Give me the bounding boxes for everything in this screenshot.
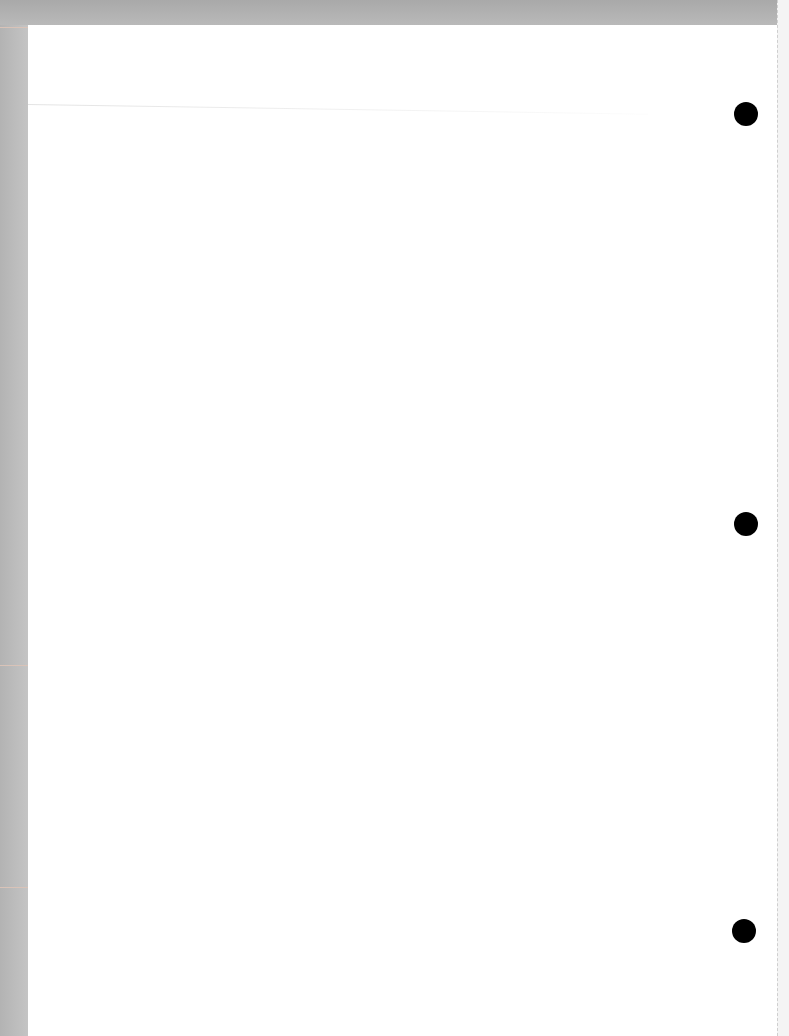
edge-mark — [0, 27, 28, 28]
punch-hole-bottom — [732, 919, 756, 943]
punch-hole-middle — [734, 512, 758, 536]
scanner-background-top — [0, 0, 789, 25]
page-right-edge — [777, 0, 789, 1036]
punch-hole-top — [734, 102, 758, 126]
scanner-background-left — [0, 25, 28, 1036]
blank-page — [28, 25, 777, 1036]
edge-mark — [0, 665, 28, 666]
edge-mark — [0, 887, 28, 888]
